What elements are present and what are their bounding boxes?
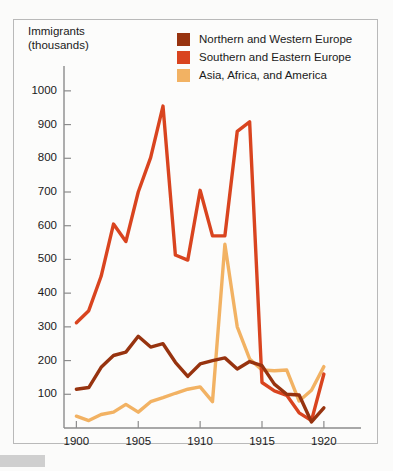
y-axis-tick-label: 500	[23, 252, 57, 264]
y-axis-tick-label: 400	[23, 286, 57, 298]
y-axis-tick-label: 600	[23, 219, 57, 231]
series-layer	[76, 106, 324, 422]
y-axis-tick-label: 700	[23, 185, 57, 197]
x-axis-tick-label: 1910	[180, 435, 220, 447]
figure-container: Immigrants (thousands) Northern and West…	[0, 0, 393, 471]
y-axis-tick-label: 800	[23, 151, 57, 163]
chart-plot	[13, 19, 378, 444]
y-axis-tick-label: 300	[23, 320, 57, 332]
x-axis-tick-label: 1915	[242, 435, 282, 447]
corner-tab	[0, 455, 45, 467]
x-axis-tick-label: 1920	[304, 435, 344, 447]
series-line-northern-and-western-europe	[76, 336, 324, 422]
y-axis-tick-label: 100	[23, 387, 57, 399]
y-axis-tick-label: 900	[23, 118, 57, 130]
x-axis-tick-label: 1905	[118, 435, 158, 447]
x-axis-tick-label: 1900	[56, 435, 96, 447]
y-axis-tick-label: 1000	[23, 84, 57, 96]
y-axis-tick-label: 200	[23, 354, 57, 366]
